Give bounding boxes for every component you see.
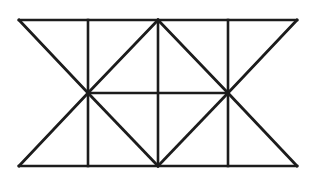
lattice-diagram <box>0 0 316 181</box>
figure-canvas <box>0 0 316 181</box>
